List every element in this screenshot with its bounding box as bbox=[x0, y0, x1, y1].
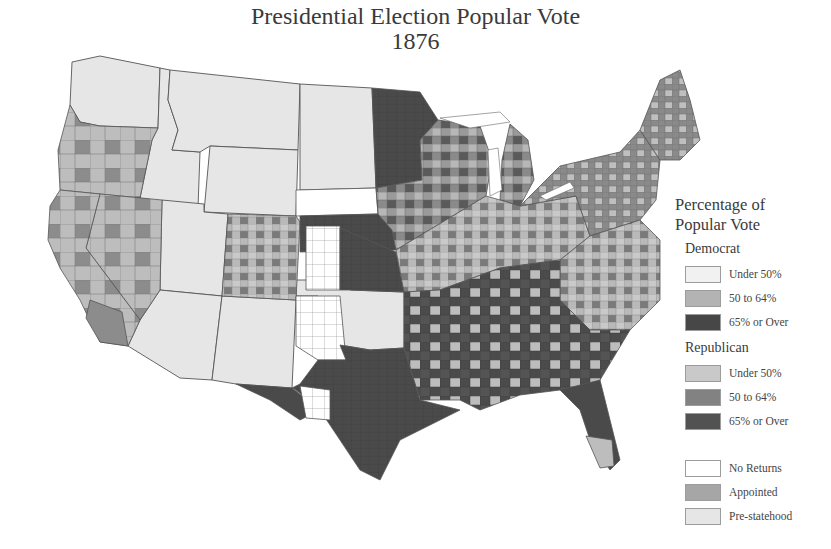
legend-heading-line-2: Popular Vote bbox=[675, 215, 831, 235]
legend-swatch bbox=[685, 413, 721, 430]
lake-michigan bbox=[488, 148, 502, 196]
legend-item: 50 to 64% bbox=[685, 385, 831, 409]
legend-swatch bbox=[685, 290, 721, 307]
legend: Percentage of Popular Vote Democrat Unde… bbox=[675, 195, 831, 528]
legend-item: Appointed bbox=[685, 480, 831, 504]
legend-label: 50 to 64% bbox=[729, 292, 776, 304]
legend-label: Pre-statehood bbox=[729, 510, 792, 522]
nebraska-no-returns bbox=[296, 188, 378, 216]
legend-heading-line-1: Percentage of bbox=[675, 195, 831, 215]
legend-swatch bbox=[685, 389, 721, 406]
texas-panhandle-grid bbox=[296, 296, 346, 360]
pacific-states bbox=[48, 105, 162, 346]
dakota-territory bbox=[300, 84, 376, 190]
new-mexico-territory bbox=[212, 296, 296, 388]
legend-label: Under 50% bbox=[729, 268, 782, 280]
legend-swatch bbox=[685, 266, 721, 283]
legend-item: Under 50% bbox=[685, 262, 831, 286]
legend-item: 65% or Over bbox=[685, 409, 831, 433]
legend-item: 65% or Over bbox=[685, 310, 831, 334]
legend-label: Appointed bbox=[729, 486, 778, 498]
legend-label: 65% or Over bbox=[729, 415, 788, 427]
legend-label: 65% or Over bbox=[729, 316, 788, 328]
legend-swatch bbox=[685, 314, 721, 331]
utah-territory bbox=[160, 200, 228, 296]
legend-swatch bbox=[685, 460, 721, 477]
legend-group-republican: Republican Under 50% 50 to 64% 65% or Ov… bbox=[685, 340, 831, 433]
south-florida bbox=[586, 436, 614, 468]
legend-label: 50 to 64% bbox=[729, 391, 776, 403]
colorado bbox=[222, 214, 300, 300]
legend-item: Under 50% bbox=[685, 361, 831, 385]
wyoming-territory bbox=[204, 146, 298, 216]
legend-swatch bbox=[685, 365, 721, 382]
legend-label: No Returns bbox=[729, 462, 782, 474]
legend-group-title: Republican bbox=[685, 340, 831, 356]
legend-label: Under 50% bbox=[729, 367, 782, 379]
washington-territory bbox=[70, 56, 160, 128]
michigan bbox=[500, 124, 534, 206]
legend-group-other: No Returns Appointed Pre-statehood bbox=[685, 456, 831, 528]
nebraska-west-grid bbox=[306, 226, 340, 290]
legend-item: 50 to 64% bbox=[685, 286, 831, 310]
legend-item: Pre-statehood bbox=[685, 504, 831, 528]
legend-group-democrat: Democrat Under 50% 50 to 64% 65% or Over bbox=[685, 241, 831, 334]
legend-swatch bbox=[685, 508, 721, 525]
montana-territory bbox=[168, 70, 300, 152]
legend-swatch bbox=[685, 484, 721, 501]
legend-item: No Returns bbox=[685, 456, 831, 480]
legend-group-title: Democrat bbox=[685, 241, 831, 257]
